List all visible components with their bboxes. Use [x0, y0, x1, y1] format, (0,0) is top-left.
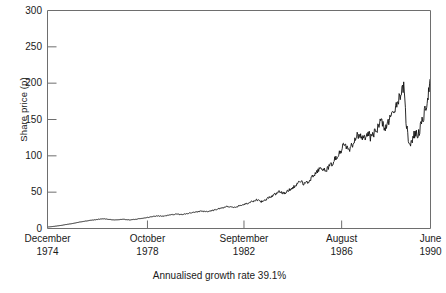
x-tick-label: October1978 [102, 233, 192, 258]
plot-frame [48, 11, 431, 229]
x-tick-month: October [102, 233, 192, 246]
x-tick-year: 1974 [3, 246, 93, 259]
chart-caption: Annualised growth rate 39.1% [0, 270, 439, 281]
x-tick-year: 1986 [297, 246, 387, 259]
x-tick-year: 1982 [199, 246, 289, 259]
axis-ticks [48, 47, 342, 229]
x-tick-month: September [199, 233, 289, 246]
x-axis-tick-labels: December1974October1978September1982Augu… [0, 233, 439, 267]
share-price-line [48, 79, 431, 227]
x-tick-label: September1982 [199, 233, 289, 258]
x-tick-month: August [297, 233, 387, 246]
x-tick-label: August1986 [297, 233, 387, 258]
x-tick-month: June [386, 233, 446, 246]
x-tick-year: 1978 [102, 246, 192, 259]
x-tick-year: 1990 [386, 246, 446, 259]
x-tick-label: June1990 [386, 233, 446, 258]
x-tick-label: December1974 [3, 233, 93, 258]
x-tick-month: December [3, 233, 93, 246]
